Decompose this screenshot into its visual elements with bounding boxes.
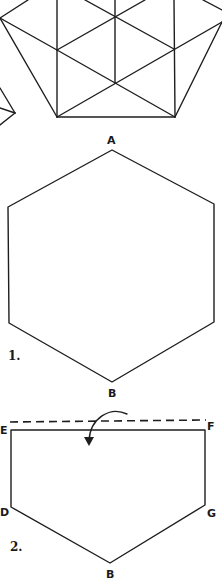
origami-diagram: A B 1. E F D G B 2. <box>0 0 222 588</box>
figure-1-hexagon <box>8 150 214 382</box>
figure-2-shape <box>10 412 206 563</box>
fold-arrow-icon <box>89 412 127 441</box>
figure-2-label-e: E <box>0 424 8 437</box>
figure-2-label-b: B <box>106 568 114 581</box>
figure-1-number: 1. <box>8 349 21 363</box>
figure-1-label-b: B <box>108 387 116 400</box>
arrowhead-icon <box>84 437 94 446</box>
top-crease-pattern <box>0 0 222 125</box>
figure-2-number: 2. <box>10 540 23 554</box>
figure-2-label-f: F <box>207 420 215 433</box>
figure-2-label-d: D <box>0 506 9 519</box>
figure-1-label-a: A <box>107 134 116 147</box>
fold-line-dashed <box>10 420 206 422</box>
figure-2-label-g: G <box>207 507 216 520</box>
